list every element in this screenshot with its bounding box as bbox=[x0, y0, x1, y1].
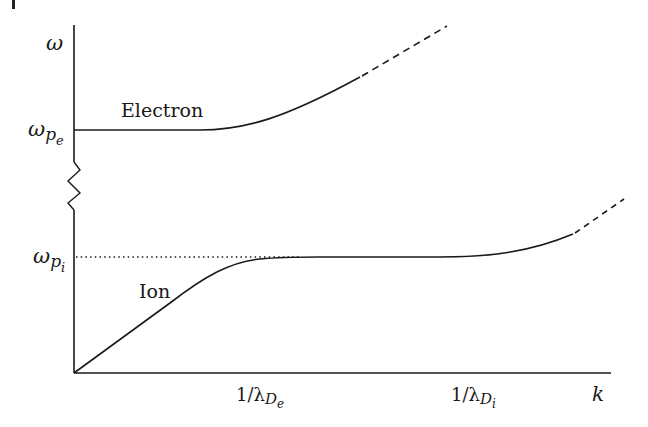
x-axis-label: k bbox=[592, 382, 604, 406]
ion-curve-dashed bbox=[575, 199, 624, 233]
svg-text:1/λDi: 1/λDi bbox=[451, 384, 496, 411]
x-tick-inverse-debye-electron: 1/λDe bbox=[236, 384, 284, 411]
y-tick-omega-pe: ωpe bbox=[28, 117, 64, 148]
y-axis-label: ω bbox=[46, 31, 63, 55]
ion-curve-label: Ion bbox=[139, 280, 170, 302]
svg-text:1/λDe: 1/λDe bbox=[236, 384, 284, 411]
ion-curve-solid bbox=[74, 234, 573, 373]
dispersion-diagram: ω ωpe ωpi Electron Ion 1/λDe 1/λDi k bbox=[0, 0, 648, 427]
y-tick-omega-pi: ωpi bbox=[33, 244, 65, 275]
electron-curve-solid bbox=[74, 77, 360, 130]
electron-curve-label: Electron bbox=[121, 99, 203, 121]
x-tick-inverse-debye-ion: 1/λDi bbox=[451, 384, 496, 411]
y-axis-break-zigzag bbox=[68, 162, 80, 210]
svg-text:ωpe: ωpe bbox=[28, 117, 64, 148]
svg-text:ωpi: ωpi bbox=[33, 244, 65, 275]
electron-curve-dashed bbox=[362, 26, 447, 76]
